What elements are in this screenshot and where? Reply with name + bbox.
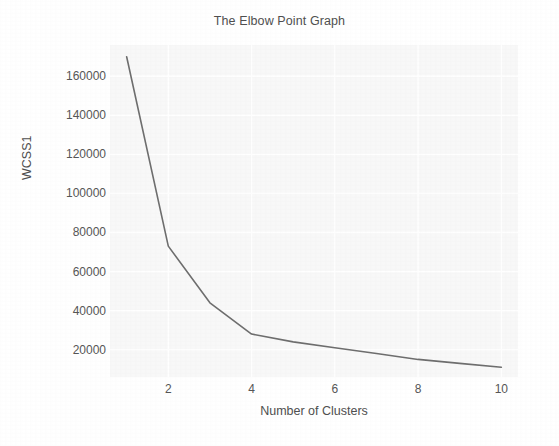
x-tick-label: 8 [415, 382, 422, 396]
y-axis-label: WCSS1 [20, 136, 34, 180]
chart-figure: The Elbow Point Graph 200004000060000800… [0, 0, 559, 446]
x-axis-tick-labels: 246810 [0, 0, 559, 446]
x-tick-label: 4 [248, 382, 255, 396]
x-axis-label: Number of Clusters [110, 404, 518, 418]
x-tick-label: 6 [331, 382, 338, 396]
x-tick-label: 10 [495, 382, 508, 396]
x-tick-label: 2 [165, 382, 172, 396]
